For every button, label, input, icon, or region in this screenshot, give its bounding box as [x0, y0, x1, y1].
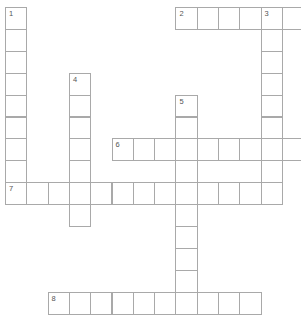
crossword-cell[interactable] [69, 292, 91, 315]
crossword-cell[interactable] [239, 292, 261, 315]
clue-number: 4 [73, 75, 77, 84]
crossword-cell[interactable] [154, 182, 176, 205]
crossword-cell[interactable] [5, 117, 27, 140]
crossword-cell[interactable] [239, 182, 261, 205]
crossword-cell[interactable] [282, 7, 301, 30]
crossword-cell[interactable] [133, 182, 155, 205]
crossword-grid: 17234568 [0, 0, 301, 318]
clue-number: 6 [116, 140, 120, 149]
crossword-cell[interactable] [133, 138, 155, 161]
crossword-cell[interactable] [261, 29, 283, 52]
crossword-cell[interactable] [69, 138, 91, 161]
crossword-cell[interactable] [154, 292, 176, 315]
crossword-cell[interactable] [112, 292, 134, 315]
crossword-cell[interactable] [261, 51, 283, 74]
crossword-cell[interactable] [197, 7, 219, 30]
crossword-cell[interactable] [69, 117, 91, 140]
crossword-cell[interactable] [239, 138, 261, 161]
crossword-cell[interactable] [175, 117, 197, 140]
crossword-cell[interactable] [175, 270, 197, 293]
crossword-cell[interactable] [239, 7, 261, 30]
clue-number: 7 [9, 184, 13, 193]
crossword-cell[interactable]: 7 [5, 182, 27, 205]
crossword-cell[interactable] [261, 117, 283, 140]
crossword-cell[interactable] [175, 204, 197, 227]
clue-number: 5 [179, 97, 183, 106]
crossword-cell[interactable] [197, 182, 219, 205]
crossword-cell[interactable]: 3 [261, 7, 283, 30]
crossword-cell[interactable] [197, 138, 219, 161]
clue-number: 8 [52, 294, 56, 303]
crossword-cell[interactable] [218, 182, 240, 205]
crossword-cell[interactable] [112, 182, 134, 205]
crossword-cell[interactable]: 4 [69, 73, 91, 96]
crossword-cell[interactable]: 2 [175, 7, 197, 30]
crossword-cell[interactable] [282, 138, 301, 161]
clue-number: 2 [179, 9, 183, 18]
crossword-cell[interactable] [26, 182, 48, 205]
clue-number: 3 [265, 9, 269, 18]
crossword-cell[interactable] [175, 160, 197, 183]
crossword-cell[interactable]: 5 [175, 95, 197, 118]
crossword-cell[interactable] [133, 292, 155, 315]
crossword-cell[interactable] [261, 95, 283, 118]
crossword-cell[interactable] [218, 7, 240, 30]
crossword-cell[interactable] [5, 95, 27, 118]
crossword-cell[interactable]: 1 [5, 7, 27, 30]
crossword-cell[interactable] [48, 182, 70, 205]
crossword-cell[interactable] [69, 95, 91, 118]
clue-number: 1 [9, 9, 13, 18]
crossword-cell[interactable] [197, 292, 219, 315]
crossword-cell[interactable] [175, 226, 197, 249]
crossword-cell[interactable] [261, 160, 283, 183]
crossword-cell[interactable]: 6 [112, 138, 134, 161]
crossword-cell[interactable] [69, 160, 91, 183]
crossword-cell[interactable] [5, 160, 27, 183]
crossword-cell[interactable] [5, 73, 27, 96]
crossword-cell[interactable] [261, 73, 283, 96]
crossword-cell[interactable] [154, 138, 176, 161]
crossword-cell[interactable] [175, 182, 197, 205]
crossword-cell[interactable] [90, 292, 112, 315]
crossword-cell[interactable] [218, 292, 240, 315]
crossword-cell[interactable] [69, 182, 91, 205]
crossword-cell[interactable] [90, 182, 112, 205]
crossword-cell[interactable] [261, 138, 283, 161]
crossword-cell[interactable] [261, 182, 283, 205]
crossword-cell[interactable] [218, 138, 240, 161]
crossword-cell[interactable] [69, 204, 91, 227]
crossword-cell[interactable] [175, 138, 197, 161]
crossword-cell[interactable] [5, 51, 27, 74]
crossword-cell[interactable] [5, 29, 27, 52]
crossword-cell[interactable] [5, 138, 27, 161]
crossword-cell[interactable] [175, 292, 197, 315]
crossword-cell[interactable]: 8 [48, 292, 70, 315]
crossword-cell[interactable] [175, 248, 197, 271]
